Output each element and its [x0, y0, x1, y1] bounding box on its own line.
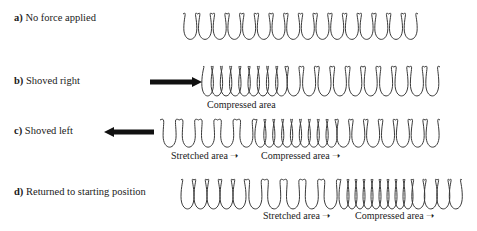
spring-row-a [183, 13, 418, 39]
springs-layer [160, 13, 462, 209]
right-force-arrow-icon [150, 77, 202, 87]
spring-row-c [160, 119, 440, 147]
spring-row-d [181, 179, 462, 209]
left-force-arrow-icon [104, 127, 154, 137]
spring-row-b [202, 66, 440, 96]
spring-diagram [0, 0, 477, 231]
force-arrows-layer [104, 77, 202, 137]
